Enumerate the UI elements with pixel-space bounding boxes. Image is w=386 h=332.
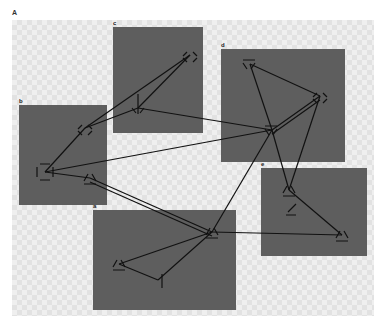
edge-d3-a1: [212, 130, 272, 232]
node-e1-triangle-icon: [283, 186, 295, 196]
edge-e1-e3: [289, 190, 342, 235]
edge-b3-a1: [90, 178, 212, 232]
node-d1-triangle-down-icon: [243, 60, 255, 69]
edge-a1-e3: [212, 232, 342, 235]
edge-b1-c2: [85, 108, 138, 128]
edge-b2-d3: [45, 130, 272, 172]
node-e2-z-icon: [286, 204, 296, 215]
edge-d2-e1: [289, 96, 320, 190]
edge-c1-b1: [85, 55, 190, 128]
edge-b3-a1b: [90, 182, 212, 236]
edge-d3-e1: [272, 130, 289, 190]
edge-c2-d3: [138, 108, 272, 130]
node-e3-triangle-icon: [336, 231, 348, 241]
node-c1-diamond-icon: [183, 52, 197, 62]
edge-b2-b3: [45, 172, 90, 178]
edge-c1-c2: [138, 55, 190, 108]
node-a2-triangle-icon: [113, 260, 125, 270]
edge-d1-d2: [250, 64, 320, 96]
edge-d2-d3: [272, 96, 320, 130]
edge-a1-a2: [119, 232, 212, 264]
node-b1-diamond-icon: [78, 125, 92, 135]
node-d2-diamond-icon: [313, 93, 327, 103]
network-edges: [0, 0, 386, 332]
edge-d1-d3: [250, 64, 272, 130]
edge-a1-a3: [158, 232, 212, 280]
